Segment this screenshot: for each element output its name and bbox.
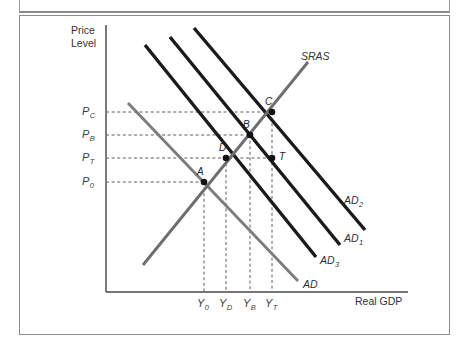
output-tick-y0-base: Y <box>197 297 204 309</box>
curve-label-sras: SRAS <box>301 50 330 62</box>
price-tick-p0-base: P <box>82 175 89 187</box>
point-label-c: C <box>265 96 272 108</box>
price-tick-pc-base: P <box>82 105 89 117</box>
curve-label-ad1-base: AD <box>344 232 359 244</box>
curve-label-ad3-base: AD <box>320 254 335 266</box>
curve-label-ad3-sub: 3 <box>335 260 339 269</box>
price-tick-pb-base: P <box>82 128 89 140</box>
point-label-a: A <box>197 166 204 178</box>
upper-box-edge <box>19 0 450 13</box>
price-tick-pb-sub: B <box>90 134 95 143</box>
price-tick-pc-sub: C <box>90 111 95 120</box>
output-tick-y0-sub: 0 <box>205 303 209 312</box>
curve-label-ad1: AD1 <box>344 232 363 245</box>
x-axis-title: Real GDP <box>355 295 402 307</box>
output-tick-yd: YD <box>219 297 232 310</box>
output-tick-yt-sub: T <box>273 303 278 312</box>
price-tick-pc: PC <box>82 105 95 118</box>
price-tick-p0: P0 <box>82 175 94 188</box>
output-tick-yb: YB <box>243 297 255 310</box>
y-axis-title-line1: Price <box>71 24 95 36</box>
curve-label-ad3: AD3 <box>320 254 339 267</box>
figure-root: Price Level Real GDP PC PB PT P0 Y0 YD Y… <box>0 0 470 347</box>
price-tick-p0-sub: 0 <box>90 181 94 190</box>
output-tick-yd-sub: D <box>227 303 232 312</box>
price-tick-pt-sub: T <box>90 157 95 166</box>
curve-label-ad: AD <box>303 278 318 290</box>
price-tick-pb: PB <box>82 128 94 141</box>
output-tick-yt-base: Y <box>265 297 272 309</box>
curve-label-ad1-sub: 1 <box>359 238 363 247</box>
point-label-b: B <box>243 119 250 131</box>
output-tick-yb-sub: B <box>251 303 256 312</box>
price-tick-pt-base: P <box>82 151 89 163</box>
output-tick-yt: YT <box>265 297 277 310</box>
curve-label-sras-base: SRAS <box>301 50 330 62</box>
price-tick-pt: PT <box>82 151 94 164</box>
curve-label-ad2-sub: 2 <box>359 200 363 209</box>
point-label-t: T <box>279 151 285 163</box>
output-tick-yb-base: Y <box>243 297 250 309</box>
curve-label-ad-base: AD <box>303 278 318 290</box>
curve-label-ad2-base: AD <box>344 194 359 206</box>
point-label-d: D <box>219 142 226 154</box>
output-tick-y0: Y0 <box>197 297 209 310</box>
output-tick-yd-base: Y <box>219 297 226 309</box>
y-axis-title-line2: Level <box>71 37 96 49</box>
curve-label-ad2: AD2 <box>344 194 363 207</box>
